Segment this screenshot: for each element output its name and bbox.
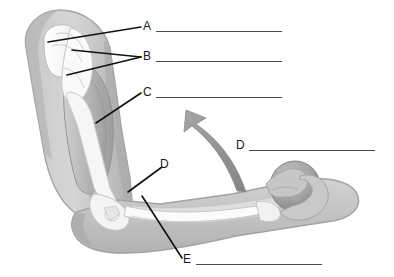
worksheet-canvas: A B C D D E	[0, 0, 394, 277]
label-letter-a: A	[143, 20, 151, 32]
answer-line-d[interactable]	[249, 150, 375, 151]
label-letter-b: B	[143, 50, 151, 62]
answer-line-c[interactable]	[156, 97, 282, 98]
arm-anatomy-illustration	[0, 0, 394, 277]
answer-line-a[interactable]	[156, 31, 282, 32]
label-letter-c: C	[143, 86, 152, 98]
label-letter-e: E	[183, 253, 191, 265]
answer-line-b[interactable]	[156, 61, 282, 62]
leader-d	[128, 167, 162, 192]
label-letter-d-pointer: D	[160, 158, 169, 170]
answer-line-e[interactable]	[196, 264, 322, 265]
label-letter-d-right: D	[236, 139, 245, 151]
